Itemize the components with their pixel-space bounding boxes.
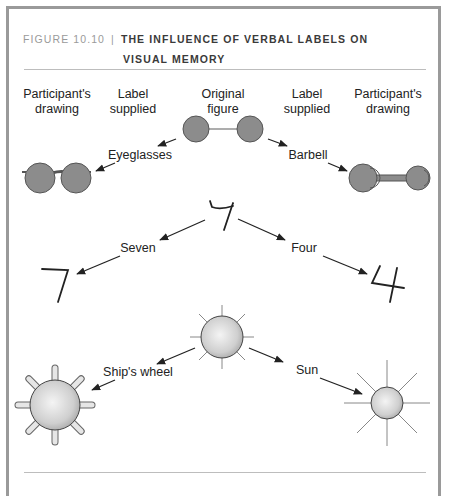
arrow-to-barbell-label [268,139,287,146]
label-ships-wheel: Ship's wheel [103,365,173,379]
original-rayed-circle [190,305,254,369]
arrow-to-seven-label [160,220,205,240]
seven-drawing [42,269,68,302]
original-ambiguous-figure [210,201,233,230]
header-left-label-2: supplied [110,102,157,116]
header-right-drawing-1: Participant's [354,87,422,101]
arrow-to-four-label [238,219,285,240]
header-left-label-1: Label [118,87,149,101]
arrow-to-sun-label [249,348,283,362]
header-original-1: Original [201,87,244,101]
arrow-to-seven-drawing [77,256,120,274]
arrow-to-barbell-drawing [328,163,347,171]
header-right-label-1: Label [292,87,323,101]
wheel-hub [30,380,80,430]
header-original-2: figure [207,102,238,116]
label-four: Four [291,241,317,255]
label-seven: Seven [120,241,155,255]
arrow-to-ships-wheel-label [157,348,195,364]
header-left-drawing-2: drawing [35,102,79,116]
ships-wheel-drawing [18,368,92,442]
header-left-drawing-1: Participant's [23,87,91,101]
eyeglasses-drawing [22,163,91,193]
label-sun: Sun [296,363,318,377]
barbell-drawing [349,164,430,192]
label-barbell: Barbell [289,148,328,162]
four-drawing [372,266,404,302]
label-eyeglasses: Eyeglasses [108,148,172,162]
arrow-to-sun-drawing [320,378,362,394]
arrow-to-eyeglasses-label [158,139,176,146]
arrow-to-eyeglasses-drawing [96,163,115,171]
arrow-to-ships-wheel-drawing [92,380,115,390]
arrow-to-four-drawing [323,256,367,274]
original-figure-circles [183,116,263,142]
header-right-drawing-2: drawing [366,102,410,116]
header-right-label-2: supplied [284,102,331,116]
sun-drawing [344,360,430,446]
